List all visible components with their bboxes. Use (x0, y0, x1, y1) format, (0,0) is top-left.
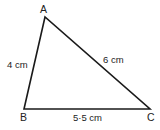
triangle-abc (24, 17, 150, 109)
side-label-ab: 4 cm (7, 59, 28, 70)
vertex-label-b: B (20, 111, 27, 123)
vertex-label-a: A (40, 3, 47, 15)
triangle-diagram: A B C 4 cm 6 cm 5·5 cm (0, 0, 160, 130)
side-label-bc: 5·5 cm (73, 112, 102, 123)
vertex-label-c: C (147, 111, 155, 123)
side-label-ac: 6 cm (103, 54, 124, 65)
